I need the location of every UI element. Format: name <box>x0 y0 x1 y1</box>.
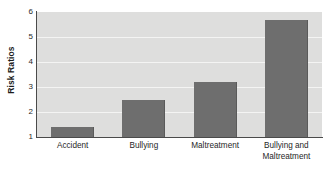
x-tick-line: Bullying <box>130 141 159 150</box>
bar-accident <box>51 127 94 137</box>
bar-bullying <box>122 100 165 138</box>
bar-maltreatment <box>194 82 237 137</box>
x-tick-line: Maltreatment <box>191 141 239 150</box>
x-tick-line: Bullying and <box>264 141 309 150</box>
bar-chart-figure: Risk Ratios 6 5 4 3 2 1 <box>0 0 326 180</box>
y-axis-tick-labels: 6 5 4 3 2 1 <box>22 12 35 137</box>
x-tick-label-maltreatment: Maltreatment <box>180 141 251 175</box>
plot-area <box>37 12 322 137</box>
x-axis-tick-labels: Accident Bullying Maltreatment Bullying … <box>37 141 322 175</box>
y-tick-label: 1 <box>29 133 33 141</box>
y-tick-label: 4 <box>29 58 33 66</box>
y-axis-title-text: Risk Ratios <box>6 46 16 93</box>
bar-slot <box>108 12 179 137</box>
x-axis-line <box>36 137 323 138</box>
x-tick-line: Maltreatment <box>251 152 322 163</box>
y-axis-line <box>36 11 37 138</box>
y-tick-label: 3 <box>29 83 33 91</box>
y-axis-title: Risk Ratios <box>0 0 22 140</box>
bar-slot <box>251 12 322 137</box>
x-tick-label-bullying-and-maltreatment: Bullying and Maltreatment <box>251 141 322 175</box>
x-tick-label-accident: Accident <box>37 141 108 175</box>
bar-slot <box>37 12 108 137</box>
bar-bullying-and-maltreatment <box>265 20 308 138</box>
y-tick-label: 2 <box>29 108 33 116</box>
bar-slot <box>180 12 251 137</box>
x-tick-line: Accident <box>57 141 88 150</box>
x-tick-label-bullying: Bullying <box>108 141 179 175</box>
y-tick-label: 6 <box>29 8 33 16</box>
bars-layer <box>37 12 322 137</box>
y-tick-label: 5 <box>29 33 33 41</box>
